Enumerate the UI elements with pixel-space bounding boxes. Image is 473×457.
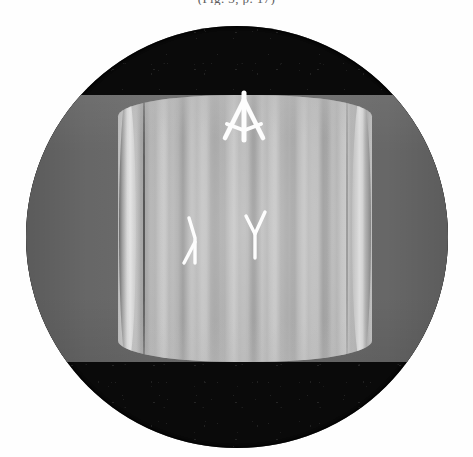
lens-rim-left (119, 95, 136, 362)
microscope-field-of-view (26, 26, 448, 448)
lens-edge-hairline-left (143, 95, 145, 362)
lens-edge-hairline-right (346, 95, 348, 362)
lens-rim-right (352, 95, 371, 362)
bright-lens-region (118, 95, 372, 362)
lens-curvature-shading (118, 95, 372, 362)
figure-root: (Fig. 3, p. 17) (0, 0, 473, 457)
caption-fragment: (Fig. 3, p. 17) (0, 0, 473, 5)
